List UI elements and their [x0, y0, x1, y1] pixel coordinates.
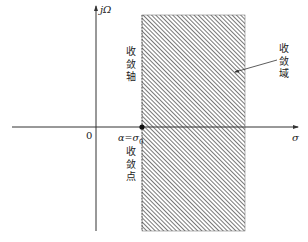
- convergence-point-label: 收 敛 点: [125, 147, 137, 185]
- j-omega-axis-label: jΩ: [100, 5, 111, 15]
- sigma-subscript: 0: [139, 138, 143, 146]
- convergence-region: [142, 15, 245, 231]
- convergence-point-dot: [139, 124, 144, 129]
- sigma-axis-label: σ: [292, 133, 299, 143]
- char: 轴: [125, 72, 137, 85]
- char: 点: [125, 172, 137, 185]
- s-plane-convergence-diagram: jΩ 0 σ α=σ0 收 敛 轴 收 敛 点 收 敛 域: [0, 0, 308, 242]
- char: 收: [125, 147, 137, 160]
- alpha-equals-sigma0-label: α=σ0: [118, 133, 143, 146]
- origin-label: 0: [86, 131, 92, 141]
- diagram-canvas: [0, 0, 308, 242]
- char: 收: [125, 47, 137, 60]
- alpha-sigma-text: α=σ: [118, 132, 139, 143]
- convergence-region-label: 收 敛 域: [278, 44, 290, 82]
- convergence-axis-label: 收 敛 轴: [125, 47, 137, 85]
- char: 收: [278, 44, 290, 57]
- char: 域: [278, 69, 290, 82]
